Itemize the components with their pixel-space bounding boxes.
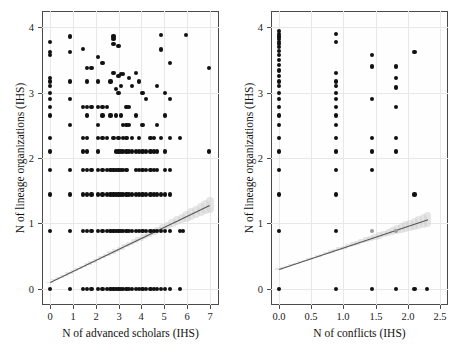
data-point <box>370 168 374 172</box>
data-point <box>100 229 104 233</box>
data-point <box>48 192 52 196</box>
y-tick-mark <box>38 93 42 94</box>
y-axis-title-left: N of lineage organizations (IHS) <box>14 83 26 234</box>
x-axis-title-right: N of conflicts (IHS) <box>313 327 405 339</box>
data-point <box>89 192 93 196</box>
x-tick-mark <box>164 305 165 309</box>
x-tick-label: 4 <box>138 311 143 322</box>
x-tick-mark <box>96 305 97 309</box>
data-point <box>370 149 374 153</box>
data-point <box>334 79 338 83</box>
data-point <box>68 168 72 172</box>
data-point <box>277 91 281 95</box>
y-tick-mark <box>267 158 271 159</box>
data-point <box>85 149 89 153</box>
x-tick-label: 7 <box>207 311 212 322</box>
data-point <box>85 192 89 196</box>
data-point <box>127 105 131 109</box>
data-point <box>85 79 89 83</box>
data-point <box>334 192 338 196</box>
data-point <box>48 149 52 153</box>
data-point <box>81 47 85 51</box>
data-point <box>168 168 172 172</box>
data-point <box>394 149 398 153</box>
data-point <box>48 53 52 57</box>
data-point <box>334 113 338 117</box>
data-point <box>48 287 52 291</box>
x-tick-label: 2.0 <box>401 311 414 322</box>
data-point <box>334 32 338 36</box>
data-point <box>144 168 148 172</box>
data-point <box>277 53 281 57</box>
y-tick-label: 0 <box>18 284 34 295</box>
data-point <box>334 168 338 172</box>
data-point <box>100 105 104 109</box>
data-point <box>111 37 115 41</box>
data-point <box>163 149 167 153</box>
data-point <box>140 91 144 95</box>
data-point <box>68 192 72 196</box>
scatter-panel-left: 01234567 01234 N of advanced scholars (I… <box>0 0 229 358</box>
x-tick-mark <box>311 305 312 309</box>
x-tick-mark <box>279 305 280 309</box>
data-point <box>277 287 281 291</box>
regression-line <box>50 205 210 283</box>
x-tick-mark <box>343 305 344 309</box>
data-point <box>108 79 112 83</box>
data-point <box>370 64 374 68</box>
data-point <box>100 61 104 65</box>
data-point <box>334 71 338 75</box>
data-point <box>412 50 416 54</box>
data-point <box>85 66 89 70</box>
data-point <box>137 79 141 83</box>
data-point <box>85 168 89 172</box>
data-point <box>277 113 281 117</box>
data-point <box>96 168 100 172</box>
x-tick-mark <box>376 305 377 309</box>
data-point <box>334 149 338 153</box>
x-tick-mark <box>187 305 188 309</box>
data-point <box>370 53 374 57</box>
data-point <box>168 192 172 196</box>
x-tick-mark <box>408 305 409 309</box>
x-tick-label: 2.5 <box>433 311 446 322</box>
data-point <box>159 192 163 196</box>
data-point <box>334 229 338 233</box>
data-point <box>134 71 138 75</box>
data-point <box>48 113 52 117</box>
y-tick-mark <box>267 93 271 94</box>
data-point <box>108 113 112 117</box>
x-tick-label: 6 <box>184 311 189 322</box>
data-point <box>119 113 123 117</box>
data-point <box>155 149 159 153</box>
scatter-panel-right: 0.00.51.01.52.02.5 01234 N of conflicts … <box>229 0 458 358</box>
data-point <box>96 79 100 83</box>
data-point <box>159 47 163 51</box>
data-point <box>89 66 93 70</box>
data-point <box>96 287 100 291</box>
data-point <box>277 105 281 109</box>
x-tick-mark <box>119 305 120 309</box>
x-tick-mark <box>141 305 142 309</box>
data-point <box>124 168 128 172</box>
data-point <box>144 287 148 291</box>
data-point <box>114 113 118 117</box>
figure-container: 01234567 01234 N of advanced scholars (I… <box>0 0 458 358</box>
data-point <box>68 79 72 83</box>
data-point <box>277 192 281 196</box>
data-point <box>277 168 281 172</box>
data-point <box>85 287 89 291</box>
regression-clip <box>42 11 219 305</box>
data-point <box>370 287 374 291</box>
data-point <box>277 58 281 62</box>
data-point <box>412 192 416 196</box>
data-point <box>134 113 138 117</box>
data-point <box>412 287 416 291</box>
x-tick-label: 1 <box>70 311 75 322</box>
data-point <box>277 74 281 78</box>
data-point <box>334 40 338 44</box>
data-point <box>159 287 163 291</box>
x-tick-label: 1.0 <box>336 311 349 322</box>
data-point <box>168 287 172 291</box>
regression-clip <box>271 11 448 305</box>
